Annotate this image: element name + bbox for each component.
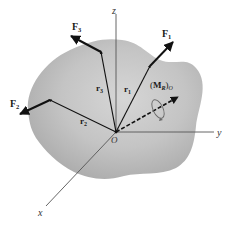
force-system-diagram: z y x O r1 r2 r3 F1 F2 F3: [0, 0, 232, 227]
y-axis-label: y: [216, 127, 222, 138]
origin-point: [115, 131, 118, 134]
F3-label: F3: [72, 21, 82, 33]
F1-label: F1: [162, 28, 171, 40]
F2-label: F2: [10, 98, 19, 110]
origin-label: O: [111, 135, 118, 145]
rigid-body: [28, 39, 203, 179]
z-axis-label: z: [111, 5, 116, 16]
x-axis-label: x: [37, 207, 43, 218]
